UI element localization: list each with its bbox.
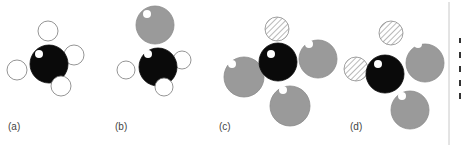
panel-label-b: (b) xyxy=(115,121,127,133)
panel-label-d: (d) xyxy=(350,121,362,133)
molecule-b xyxy=(117,6,191,96)
halogen-atom xyxy=(299,40,337,78)
hydrogen-atom xyxy=(7,60,27,80)
hydrogen-atom xyxy=(38,21,58,41)
atom-highlight xyxy=(35,50,43,58)
carbon-atom xyxy=(366,55,404,93)
atom-highlight xyxy=(305,40,313,48)
molecule-d xyxy=(344,21,444,129)
hatched-atom xyxy=(379,21,403,45)
hatched-atom xyxy=(265,17,289,41)
hydrogen-atom xyxy=(117,61,135,79)
halogen-atom xyxy=(406,44,444,82)
halogen-atom xyxy=(391,91,429,129)
molecule-a xyxy=(7,21,84,96)
hydrogen-atom xyxy=(155,78,173,96)
atom-highlight xyxy=(228,60,236,68)
halogen-atom xyxy=(270,86,310,126)
atom-highlight xyxy=(414,40,422,48)
carbon-atom xyxy=(259,43,297,81)
molecule-c xyxy=(224,17,337,126)
atom-highlight xyxy=(267,50,275,58)
molecular-models-figure: (a) (b) (c) (d) xyxy=(0,0,461,147)
halogen-atom xyxy=(136,6,174,44)
panel-label-c: (c) xyxy=(219,121,231,133)
atom-highlight xyxy=(398,92,406,100)
atom-highlight xyxy=(279,86,287,94)
atom-highlight xyxy=(144,50,152,58)
atom-highlight xyxy=(143,10,151,18)
hatched-atom xyxy=(344,57,368,81)
hydrogen-atom xyxy=(51,76,71,96)
panel-label-a: (a) xyxy=(8,121,20,133)
atom-highlight xyxy=(374,60,382,68)
